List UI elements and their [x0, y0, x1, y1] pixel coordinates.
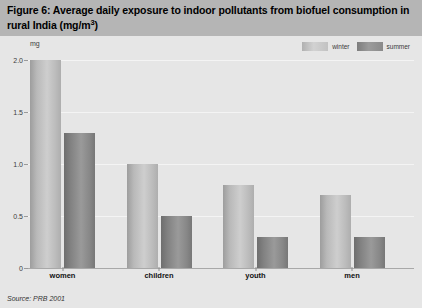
- x-axis-label-youth: youth: [245, 271, 265, 280]
- y-tick-label: 2.0: [13, 57, 23, 64]
- bar-youth-summer[interactable]: [257, 237, 288, 268]
- x-axis-label-women: women: [50, 271, 76, 280]
- y-tick-label: 0.5: [13, 213, 23, 220]
- bar-group-women: [30, 60, 95, 268]
- legend-swatch-summer: [357, 42, 383, 51]
- legend-item-summer[interactable]: summer: [357, 42, 410, 51]
- bar-women-summer[interactable]: [64, 133, 95, 268]
- bar-men-summer[interactable]: [354, 237, 385, 268]
- y-tick-label: 1.0: [13, 161, 23, 168]
- figure-title-suffix: ): [95, 19, 98, 31]
- legend-label-summer: summer: [387, 43, 410, 50]
- legend-item-winter[interactable]: winter: [302, 42, 349, 51]
- bar-children-summer[interactable]: [161, 216, 192, 268]
- y-axis-unit-label: mg: [30, 40, 40, 47]
- bar-group-youth: [223, 60, 288, 268]
- bar-group-children: [127, 60, 192, 268]
- bar-group-men: [320, 60, 385, 268]
- source-note: Source: PRB 2001: [7, 295, 65, 302]
- x-axis-label-men: men: [344, 271, 359, 280]
- x-axis-label-children: children: [144, 271, 173, 280]
- y-tick-label: 0: [19, 265, 23, 272]
- y-tick-label: 1.5: [13, 109, 23, 116]
- plot-area: 00.51.01.52.0: [28, 60, 414, 268]
- figure-container: Figure 6: Average daily exposure to indo…: [0, 0, 422, 308]
- chart-body: winter summer mg 00.51.01.52.0 womenchil…: [0, 36, 422, 308]
- figure-title-main: Figure 6: Average daily exposure to indo…: [7, 4, 409, 31]
- y-tick-mark: [24, 268, 28, 269]
- chart-legend: winter summer: [302, 41, 410, 52]
- gridline-0: 0: [28, 268, 414, 269]
- bar-men-winter[interactable]: [320, 195, 351, 268]
- legend-swatch-winter: [302, 42, 328, 51]
- bar-youth-winter[interactable]: [223, 185, 254, 268]
- legend-label-winter: winter: [332, 43, 349, 50]
- bar-children-winter[interactable]: [127, 164, 158, 268]
- figure-title-banner: Figure 6: Average daily exposure to indo…: [0, 0, 422, 36]
- x-axis-labels: womenchildrenyouthmen: [28, 271, 414, 285]
- bar-women-winter[interactable]: [30, 60, 61, 268]
- page-title: Figure 6: Average daily exposure to indo…: [7, 3, 414, 32]
- bar-series-container: [28, 60, 414, 268]
